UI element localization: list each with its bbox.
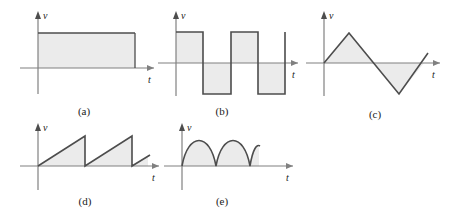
panel-e-time-axis-arrow-icon	[286, 163, 293, 169]
caption-a: (a)	[78, 105, 90, 117]
panel-c-voltage-axis-arrow-icon	[321, 11, 327, 19]
panel-b-square-waveform: v t	[152, 6, 304, 102]
panel-a-dc-waveform: v t	[14, 6, 164, 102]
panel-b-time-axis-label: t	[292, 69, 295, 80]
panel-b-svg: v t	[152, 6, 304, 102]
panel-c-fill-neg	[374, 63, 424, 94]
panel-b-voltage-axis-arrow-icon	[173, 11, 179, 19]
panel-d-time-axis-label: t	[152, 172, 155, 183]
panel-d-voltage-axis-arrow-icon	[35, 123, 41, 131]
panel-d-svg: v t	[14, 118, 164, 198]
caption-c: (c)	[369, 108, 381, 120]
panel-a-voltage-axis-label: v	[43, 10, 48, 21]
panel-e-time-axis-label: t	[286, 172, 289, 183]
caption-b: (b)	[216, 105, 229, 117]
panel-e-voltage-axis-arrow-icon	[179, 123, 185, 131]
panel-e-fill-hump-2	[216, 141, 250, 167]
panel-e-rectified-sine-waveform: v t	[158, 118, 308, 198]
panel-d-sawtooth-waveform: v t	[14, 118, 164, 198]
panel-e-fill-hump-1	[182, 141, 216, 167]
panel-b-fill-neg-2	[258, 63, 285, 94]
panel-b-fill-pos-1	[176, 32, 203, 63]
panel-b-voltage-axis-label: v	[181, 10, 186, 21]
panel-b-time-axis-arrow-icon	[291, 60, 298, 66]
caption-d: (d)	[79, 195, 92, 207]
panel-a-svg: v t	[14, 6, 164, 102]
panel-d-voltage-axis-label: v	[43, 122, 48, 133]
panel-c-time-axis-arrow-icon	[433, 60, 440, 66]
panel-b-fill-pos-2	[231, 32, 258, 63]
panel-a-fill	[38, 33, 135, 68]
panel-a-time-axis-label: t	[148, 74, 151, 85]
panel-c-svg: v t	[300, 6, 450, 106]
caption-e: (e)	[216, 195, 228, 207]
panel-c-voltage-axis-label: v	[329, 10, 334, 21]
panel-c-triangle-waveform: v t	[300, 6, 450, 106]
waveform-figure: v t v t	[0, 0, 453, 221]
panel-b-fill-neg-1	[203, 63, 231, 94]
panel-e-voltage-axis-label: v	[187, 122, 192, 133]
panel-a-voltage-axis-arrow-icon	[35, 11, 41, 19]
panel-c-fill-pos	[324, 33, 374, 63]
panel-e-svg: v t	[158, 118, 308, 198]
panel-c-time-axis-label: t	[432, 69, 435, 80]
